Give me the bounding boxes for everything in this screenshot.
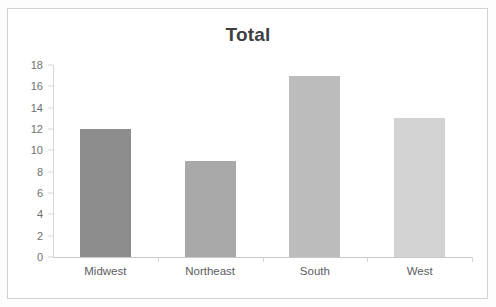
chart-page-background: Total 181614121086420 MidwestNortheastSo… (0, 0, 496, 307)
y-axis-tick-label: 8 (37, 166, 43, 178)
y-axis-tick-label: 0 (37, 251, 43, 263)
x-axis-tick-mark (367, 257, 368, 262)
x-axis-tick-mark (472, 257, 473, 262)
y-axis-tick-label: 2 (37, 230, 43, 242)
x-axis-tick-mark (263, 257, 264, 262)
y-axis-tick-label: 12 (31, 123, 43, 135)
y-axis: 181614121086420 (0, 65, 53, 257)
chart-title: Total (0, 24, 496, 46)
x-axis-label-west: West (367, 265, 472, 277)
x-axis-label-south: South (263, 265, 368, 277)
x-axis-labels: MidwestNortheastSouthWest (53, 265, 472, 289)
bar-northeast (185, 161, 236, 257)
x-axis-label-northeast: Northeast (158, 265, 263, 277)
y-axis-tick-label: 18 (31, 59, 43, 71)
bar-west (394, 118, 445, 257)
x-axis-tick-mark (158, 257, 159, 262)
bar-midwest (80, 129, 131, 257)
y-axis-tick-label: 10 (31, 144, 43, 156)
plot-area (53, 65, 472, 257)
bar-south (289, 76, 340, 257)
y-axis-tick-label: 6 (37, 187, 43, 199)
x-axis-label-midwest: Midwest (53, 265, 158, 277)
y-axis-tick-label: 4 (37, 208, 43, 220)
y-axis-tick-label: 14 (31, 102, 43, 114)
y-axis-tick-label: 16 (31, 80, 43, 92)
